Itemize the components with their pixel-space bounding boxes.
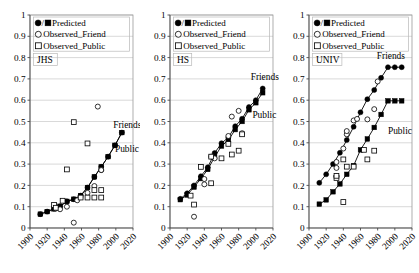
panel-plot-hs: 00.10.20.30.40.50.60.70.80.9119001920194… <box>140 0 280 273</box>
y-tick-label-10: 1 <box>21 10 26 20</box>
data-point-1-0 <box>317 202 322 207</box>
data-point-1-4 <box>205 167 210 172</box>
data-point-1-11 <box>393 99 398 104</box>
x-tick-label-5: 2000 <box>380 231 400 251</box>
legend-label-observed-public: Observed_Public <box>322 41 384 51</box>
data-point-2-0 <box>191 214 196 219</box>
x-tick-label-3: 1960 <box>67 231 87 251</box>
y-tick-label-9: 0.9 <box>14 32 26 42</box>
legend-label-observed-friend: Observed_Friend <box>322 29 385 39</box>
y-tick-label-5: 0.5 <box>14 117 26 127</box>
y-tick-label-6: 0.6 <box>14 95 26 105</box>
data-point-1-0 <box>38 212 43 217</box>
x-tick-label-5: 2000 <box>241 231 261 251</box>
data-point-1-8 <box>92 175 97 180</box>
y-tick-label-9: 0.9 <box>154 32 166 42</box>
x-tick-label-1: 1920 <box>172 231 192 251</box>
panel-jhs: 00.10.20.30.40.50.60.70.80.9119001920194… <box>0 0 140 273</box>
y-tick-label-6: 0.6 <box>293 95 305 105</box>
data-point-2-5 <box>225 133 230 138</box>
legend-label-observed-friend: Observed_Friend <box>43 29 106 39</box>
data-point-2-5 <box>85 190 90 195</box>
figure-container: 00.10.20.30.40.50.60.70.80.9119001920194… <box>0 0 419 273</box>
data-point-1-10 <box>106 154 111 159</box>
y-tick-label-9: 0.9 <box>293 32 305 42</box>
data-point-0-7 <box>365 97 370 102</box>
x-tick-label-3: 1960 <box>346 231 366 251</box>
data-point-3-4 <box>71 120 76 125</box>
legend-label-predicted: Predicted <box>191 18 225 28</box>
legend-predicted-circle-icon <box>35 20 41 26</box>
data-point-0-5 <box>351 124 356 129</box>
data-point-3-9 <box>239 132 244 137</box>
data-point-0-11 <box>393 65 398 70</box>
data-point-1-11 <box>253 100 258 105</box>
x-tick-label-4: 1980 <box>84 231 104 251</box>
data-point-3-4 <box>345 164 350 169</box>
y-tick-label-4: 0.4 <box>293 138 305 148</box>
data-point-0-8 <box>372 87 377 92</box>
data-point-1-2 <box>191 185 196 190</box>
group-label-jhs: JHS <box>37 55 53 65</box>
data-point-1-8 <box>372 125 377 130</box>
data-point-3-6 <box>362 147 367 152</box>
data-point-3-1 <box>53 205 58 210</box>
y-tick-label-1: 0.1 <box>293 202 305 212</box>
y-tick-label-0: 0 <box>300 223 305 233</box>
annotation-friends: Friends <box>377 51 405 61</box>
data-point-3-0 <box>188 193 193 198</box>
data-point-0-1 <box>324 172 329 177</box>
legend-predicted-square-icon <box>324 20 330 26</box>
panel-plot-univ: 00.10.20.30.40.50.60.70.80.9119001920194… <box>279 0 419 273</box>
data-point-2-7 <box>355 116 360 121</box>
data-point-3-10 <box>99 195 104 200</box>
annotation-friends: Friends <box>250 72 278 82</box>
data-point-1-3 <box>338 182 343 187</box>
data-point-1-10 <box>246 107 251 112</box>
y-tick-label-8: 0.8 <box>154 53 166 63</box>
y-tick-label-8: 0.8 <box>293 53 305 63</box>
data-point-3-8 <box>236 148 241 153</box>
legend-label-observed-public: Observed_Public <box>43 41 105 51</box>
x-tick-label-1: 1920 <box>33 231 53 251</box>
data-point-3-11 <box>99 188 104 193</box>
y-tick-label-1: 0.1 <box>14 202 26 212</box>
data-point-1-9 <box>239 119 244 124</box>
legend-label-predicted: Predicted <box>52 18 86 28</box>
legend-label-predicted: Predicted <box>331 18 365 28</box>
data-point-1-4 <box>345 172 350 177</box>
panel-univ: 00.10.20.30.40.50.60.70.80.9119001920194… <box>279 0 419 273</box>
legend-label-observed-public: Observed_Public <box>183 41 245 51</box>
annotation-public: Public <box>252 110 276 120</box>
annotation-friends: Friends <box>113 120 139 130</box>
data-point-3-5 <box>219 156 224 161</box>
legend-predicted-circle-icon <box>314 20 320 26</box>
legend-observed-friend-icon <box>314 31 320 37</box>
data-point-1-9 <box>379 112 384 117</box>
legend-predicted-square-icon <box>185 20 191 26</box>
x-tick-label-4: 1980 <box>363 231 383 251</box>
data-point-2-1 <box>201 182 206 187</box>
legend-observed-public-icon <box>175 43 181 49</box>
data-point-3-4 <box>208 181 213 186</box>
panel-plot-jhs: 00.10.20.30.40.50.60.70.80.9119001920194… <box>0 0 140 273</box>
data-point-1-7 <box>365 137 370 142</box>
y-tick-label-3: 0.3 <box>154 159 166 169</box>
group-label-univ: UNIV <box>316 55 340 65</box>
data-point-3-2 <box>60 198 65 203</box>
data-point-3-8 <box>372 148 377 153</box>
data-point-2-2 <box>64 204 69 209</box>
data-point-3-6 <box>226 141 231 146</box>
data-point-1-10 <box>386 99 391 104</box>
data-point-2-10 <box>375 79 380 84</box>
legend-observed-public-icon <box>315 43 321 49</box>
data-point-3-1 <box>334 173 339 178</box>
y-tick-label-3: 0.3 <box>293 159 305 169</box>
x-tick-label-2: 1940 <box>50 231 70 251</box>
data-point-0-10 <box>386 65 391 70</box>
x-tick-label-0: 1900 <box>155 231 175 251</box>
y-tick-label-0: 0 <box>160 223 165 233</box>
x-tick-label-0: 1900 <box>15 231 35 251</box>
y-tick-label-5: 0.5 <box>293 117 305 127</box>
y-tick-label-1: 0.1 <box>154 202 166 212</box>
